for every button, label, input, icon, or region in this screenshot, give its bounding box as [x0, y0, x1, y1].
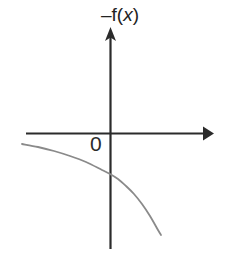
coordinate-plot — [0, 0, 237, 260]
origin-label: 0 — [90, 133, 102, 154]
graph-figure: –f(x) 0 — [0, 0, 237, 260]
x-axis-arrow-icon — [203, 127, 214, 141]
function-curve — [22, 144, 161, 235]
